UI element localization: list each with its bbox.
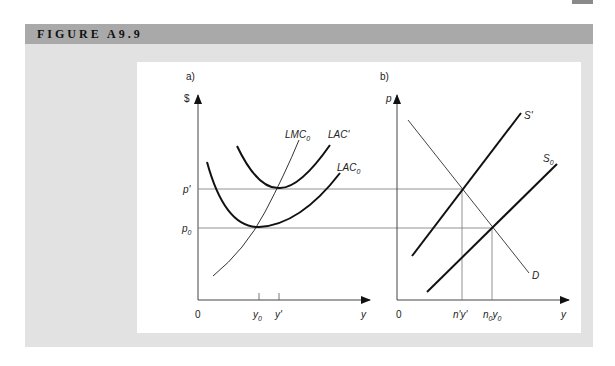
- lac-prime-label: LAC': [328, 129, 350, 140]
- panel-a-label: a): [186, 71, 195, 82]
- d-label: D: [532, 270, 539, 281]
- panel-a-x-axis-label: y: [360, 309, 367, 320]
- y-prime-label: y': [274, 309, 283, 320]
- panel-b-x-axis-label: y: [560, 309, 567, 320]
- s0-label: S0: [543, 153, 554, 166]
- n-prime-y-prime-label: n'y': [453, 309, 468, 320]
- panel-b-y-axis-label: p: [385, 93, 392, 104]
- diagram: a) $ 0 y p' p0 y0 y' LMC0 LAC' LAC0 b) p…: [0, 0, 615, 366]
- panel-a-y-axis-label: $: [184, 93, 190, 104]
- n0y0-label: n0y0: [483, 309, 501, 322]
- supply-prime-curve: [412, 113, 521, 256]
- p0-label: p0: [181, 223, 192, 236]
- lac0-label: LAC0: [337, 162, 360, 175]
- p-prime-label: p': [182, 184, 192, 195]
- lmc0-label: LMC0: [285, 129, 310, 142]
- panel-b-origin-label: 0: [396, 309, 402, 320]
- lac-prime-curve: [237, 145, 330, 188]
- panel-a: a) $ 0 y p' p0 y0 y' LMC0 LAC' LAC0: [181, 71, 492, 322]
- panel-a-origin-label: 0: [195, 309, 201, 320]
- s-prime-label: S': [524, 110, 534, 121]
- y0-label: y0: [252, 309, 262, 322]
- panel-b-label: b): [380, 71, 389, 82]
- panel-b: b) p 0 y S' S0 D n'y' n0y0: [380, 71, 569, 322]
